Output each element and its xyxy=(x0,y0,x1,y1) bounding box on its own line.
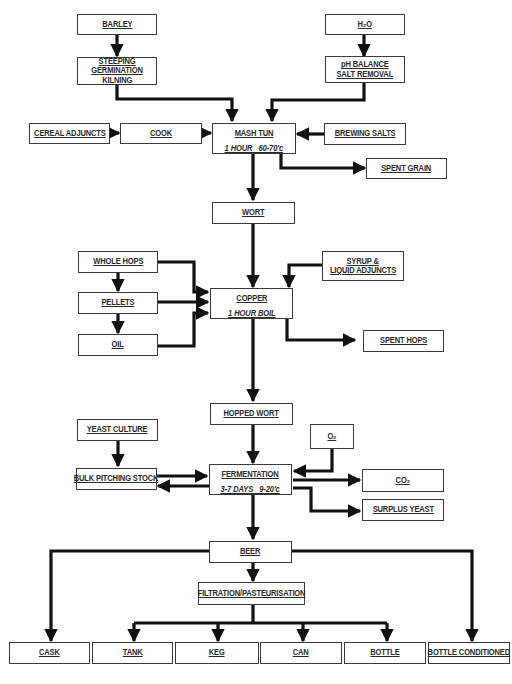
node-detail: 1 HOUR 60-70'c xyxy=(225,144,284,154)
node-detail: 1 HOUR BOIL xyxy=(228,309,276,319)
node-label-line: pH BALANCE xyxy=(341,60,389,69)
node-label: FILTRATION/PASTEURISATION xyxy=(198,589,306,599)
node-label-line: SALT REMOVAL xyxy=(337,70,394,79)
edge-steeping-mashtun xyxy=(117,84,232,121)
node-spent-grain: SPENT GRAIN xyxy=(366,158,447,179)
node-brewing-salts: BREWING SALTS xyxy=(324,123,406,145)
node-label: BEER xyxy=(240,547,260,557)
node-label: SURPLUS YEAST xyxy=(372,505,433,515)
edge-oil-copper xyxy=(157,313,208,346)
edge-syrup-copper xyxy=(289,265,322,287)
node-label: KEG xyxy=(209,648,225,658)
node-label-line: KILNING xyxy=(102,76,132,85)
node-tank: TANK xyxy=(92,642,173,664)
node-label: WHOLE HOPS xyxy=(93,257,143,267)
node-syrup-liquid-adjuncts: SYRUP & LIQUID ADJUNCTS xyxy=(322,251,404,281)
node-label: FERMENTATION xyxy=(222,470,279,480)
node-label: H₂O xyxy=(358,20,372,30)
node-label: YEAST CULTURE xyxy=(87,425,148,435)
node-label: BULK PITCHING STOCK xyxy=(74,474,159,484)
node-label: BOTTLE CONDITIONED xyxy=(428,648,510,658)
edge-beer-bottleconditioned xyxy=(292,551,472,641)
node-label: OIL xyxy=(112,340,124,350)
node-label: SPENT HOPS xyxy=(380,336,427,346)
node-cask: CASK xyxy=(9,642,90,664)
edge-wholehops-copper xyxy=(157,262,208,292)
node-cook: COOK xyxy=(120,123,202,144)
node-label: HOPPED WORT xyxy=(224,409,279,419)
node-co2: CO₂ xyxy=(362,469,444,492)
node-oil: OIL xyxy=(78,334,158,356)
node-oxygen: O₂ xyxy=(310,424,354,449)
node-label: TANK xyxy=(123,648,143,658)
node-fermentation: FERMENTATION 3-7 DAYS 9-20'c xyxy=(209,464,292,495)
node-detail: 3-7 DAYS 9-20'c xyxy=(221,485,280,495)
node-water: H₂O xyxy=(325,14,405,35)
node-bulk-pitching-stock: BULK PITCHING STOCK xyxy=(76,468,157,490)
edge-oxygen-fermentation xyxy=(294,449,332,471)
node-label: BARLEY xyxy=(102,20,132,30)
edge-fermentation-surplus xyxy=(293,488,360,511)
node-label: COOK xyxy=(150,129,172,139)
node-label: BREWING SALTS xyxy=(335,129,396,139)
node-label: COPPER xyxy=(236,294,267,304)
node-pellets: PELLETS xyxy=(78,292,158,314)
node-label: CAN xyxy=(293,648,309,658)
edge-mashtun-spentgrain xyxy=(281,153,365,168)
node-label: BOTTLE xyxy=(370,648,399,658)
node-hopped-wort: HOPPED WORT xyxy=(210,403,293,425)
node-cereal-adjuncts: CEREAL ADJUNCTS xyxy=(29,123,110,144)
node-label-line: SYRUP & xyxy=(347,257,379,266)
node-keg: KEG xyxy=(175,642,259,664)
node-beer: BEER xyxy=(209,541,292,563)
node-label: WORT xyxy=(242,208,264,218)
node-copper: COPPER 1 HOUR BOIL xyxy=(210,288,293,319)
edge-beer-cask xyxy=(51,551,210,641)
node-label-line: LIQUID ADJUNCTS xyxy=(330,266,396,275)
node-steeping-germination-kilning: STEEPING GERMINATION KILNING xyxy=(77,57,157,85)
node-barley: BARLEY xyxy=(77,14,157,35)
edge-copper-spenthops xyxy=(287,318,355,340)
node-label: CEREAL ADJUNCTS xyxy=(34,129,106,139)
node-whole-hops: WHOLE HOPS xyxy=(78,251,158,273)
node-label: PELLETS xyxy=(102,298,135,308)
node-label: CO₂ xyxy=(396,476,410,486)
node-ph-balance-salt-removal: pH BALANCE SALT REMOVAL xyxy=(325,56,405,83)
node-mash-tun: MASH TUN 1 HOUR 60-70'c xyxy=(212,123,296,154)
node-label: O₂ xyxy=(328,432,337,442)
node-label: SPENT GRAIN xyxy=(382,164,432,174)
brewing-process-flowchart: BARLEY STEEPING GERMINATION KILNING H₂O … xyxy=(0,0,512,684)
node-yeast-culture: YEAST CULTURE xyxy=(77,419,158,441)
node-label-line: GERMINATION xyxy=(91,66,142,75)
node-filtration-pasteurisation: FILTRATION/PASTEURISATION xyxy=(198,582,305,605)
node-surplus-yeast: SURPLUS YEAST xyxy=(362,499,444,521)
node-bottle-conditioned: BOTTLE CONDITIONED xyxy=(428,642,510,664)
node-label: CASK xyxy=(39,648,60,658)
edge-ph-mashtun xyxy=(272,82,364,121)
node-can: CAN xyxy=(260,642,342,664)
node-bottle: BOTTLE xyxy=(344,642,426,664)
node-spent-hops: SPENT HOPS xyxy=(363,330,444,352)
node-label-line: STEEPING xyxy=(98,57,135,66)
node-wort: WORT xyxy=(212,202,295,224)
node-label: MASH TUN xyxy=(235,129,274,139)
